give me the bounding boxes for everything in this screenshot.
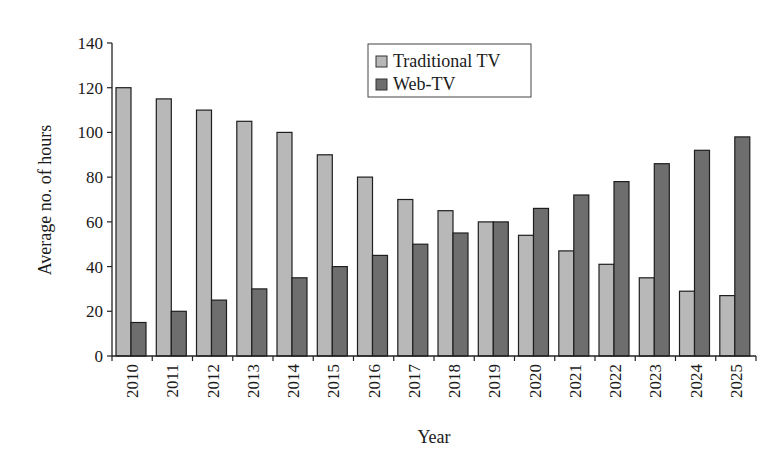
x-tick-label: 2022: [606, 364, 625, 398]
bar-web-tv-2014: [292, 278, 307, 356]
bar-traditional-tv-2019: [478, 222, 493, 356]
x-tick-label: 2012: [204, 364, 223, 398]
bar-web-tv-2015: [332, 267, 347, 356]
x-axis-ticks: 2010201120122013201420152016201720182019…: [112, 356, 756, 398]
legend-label-web-tv: Web-TV: [393, 74, 456, 94]
bar-web-tv-2010: [131, 323, 146, 357]
bar-web-tv-2017: [413, 244, 428, 356]
x-tick-label: 2025: [727, 364, 746, 398]
x-tick-label: 2018: [445, 364, 464, 398]
bar-chart: 020406080100120140 201020112012201320142…: [0, 0, 779, 476]
bar-traditional-tv-2025: [720, 296, 735, 356]
bar-traditional-tv-2022: [599, 264, 614, 356]
x-tick-label: 2021: [566, 364, 585, 398]
legend: Traditional TV Web-TV: [368, 44, 531, 97]
bar-web-tv-2019: [493, 222, 508, 356]
x-tick-label: 2011: [163, 364, 182, 397]
bar-web-tv-2022: [614, 182, 629, 356]
bar-web-tv-2021: [574, 195, 589, 356]
legend-label-traditional-tv: Traditional TV: [393, 51, 501, 71]
bar-traditional-tv-2014: [277, 132, 292, 356]
x-tick-label: 2017: [405, 364, 424, 399]
x-tick-label: 2013: [244, 364, 263, 398]
bar-web-tv-2016: [373, 255, 388, 356]
bar-traditional-tv-2020: [519, 235, 534, 356]
x-tick-label: 2014: [284, 364, 303, 399]
x-tick-label: 2023: [646, 364, 665, 398]
legend-swatch-traditional-tv: [376, 56, 387, 67]
y-tick-label: 80: [86, 168, 103, 187]
x-tick-label: 2020: [526, 364, 545, 398]
bar-web-tv-2020: [534, 208, 549, 356]
bars-group: [116, 88, 750, 356]
x-tick-label: 2024: [687, 364, 706, 399]
bar-traditional-tv-2023: [639, 278, 654, 356]
bar-web-tv-2023: [654, 164, 669, 356]
bar-traditional-tv-2021: [559, 251, 574, 356]
legend-swatch-web-tv: [376, 79, 387, 90]
x-tick-label: 2015: [324, 364, 343, 398]
bar-web-tv-2012: [212, 300, 227, 356]
x-tick-label: 2010: [123, 364, 142, 398]
bar-traditional-tv-2018: [438, 211, 453, 356]
y-tick-label: 100: [78, 123, 104, 142]
y-tick-label: 20: [86, 302, 103, 321]
y-tick-label: 140: [78, 34, 104, 53]
bar-web-tv-2024: [695, 150, 710, 356]
bar-traditional-tv-2012: [197, 110, 212, 356]
bar-traditional-tv-2011: [156, 99, 171, 356]
y-tick-label: 120: [78, 79, 104, 98]
bar-traditional-tv-2017: [398, 200, 413, 357]
bar-traditional-tv-2016: [358, 177, 373, 356]
bar-traditional-tv-2024: [680, 291, 695, 356]
bar-traditional-tv-2013: [237, 121, 252, 356]
y-tick-label: 60: [86, 213, 103, 232]
x-axis-title: Year: [417, 427, 450, 447]
y-tick-label: 40: [86, 258, 103, 277]
bar-web-tv-2011: [171, 311, 186, 356]
bar-web-tv-2018: [453, 233, 468, 356]
x-tick-label: 2019: [485, 364, 504, 398]
y-axis-ticks: 020406080100120140: [78, 34, 113, 366]
bar-traditional-tv-2010: [116, 88, 131, 356]
bar-traditional-tv-2015: [317, 155, 332, 356]
x-tick-label: 2016: [365, 364, 384, 398]
bar-web-tv-2025: [735, 137, 750, 356]
y-axis-title: Average no. of hours: [35, 125, 55, 276]
bar-web-tv-2013: [252, 289, 267, 356]
y-tick-label: 0: [95, 347, 104, 366]
